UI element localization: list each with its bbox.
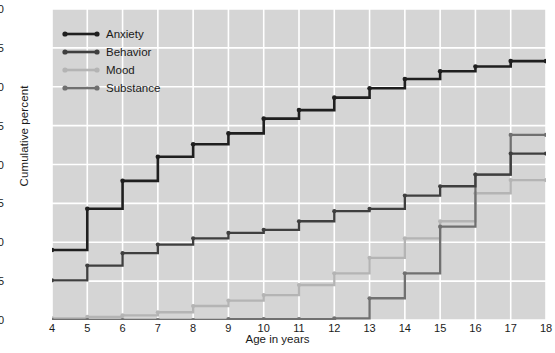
data-point [544,152,546,156]
data-point [226,231,230,235]
x-tick-label: 7 [143,322,173,334]
legend-item-substance[interactable]: Substance [62,80,160,96]
legend-item-label: Mood [106,63,135,77]
data-point [544,133,546,137]
data-point [367,256,371,260]
data-point [367,86,372,91]
data-point [85,207,90,212]
data-point [509,152,513,156]
data-point [156,310,160,314]
data-point [509,178,513,182]
x-tick-label: 12 [319,322,349,334]
data-point [509,133,513,137]
data-point [191,318,195,320]
data-point [438,219,442,223]
chart-figure: Cumulative percent Age in years 40353025… [0,0,555,353]
chart-legend: AnxietyBehaviorMoodSubstance [62,26,160,96]
data-point [297,283,301,287]
data-point [332,271,336,275]
legend-item-label: Anxiety [106,27,144,41]
data-point [85,263,89,267]
y-tick-label: 25 [0,120,4,132]
data-point [367,296,371,300]
y-tick-label: 15 [0,197,4,209]
legend-line-swatch-icon [62,81,100,95]
data-point [508,59,513,64]
y-tick-label: 0 [0,314,4,326]
x-tick-label: 8 [178,322,208,334]
x-tick-label: 18 [531,322,555,334]
data-point [262,293,266,297]
data-point [473,64,478,69]
x-tick-label: 15 [425,322,455,334]
data-point [156,154,161,159]
x-tick-label: 11 [284,322,314,334]
data-point [120,179,125,184]
data-point [262,317,266,320]
data-point [438,69,443,74]
legend-item-behavior[interactable]: Behavior [62,44,160,60]
y-tick-label: 5 [0,275,4,287]
y-tick-label: 20 [0,159,4,171]
data-point [473,173,477,177]
data-point [226,317,230,320]
data-point [156,318,160,320]
legend-line-swatch-icon [62,27,100,41]
data-point [332,209,336,213]
x-tick-label: 13 [355,322,385,334]
legend-line-swatch-icon [62,45,100,59]
x-tick-label: 5 [72,322,102,334]
legend-item-anxiety[interactable]: Anxiety [62,26,160,42]
data-point [403,77,408,82]
data-point [403,236,407,240]
x-tick-label: 4 [37,322,67,334]
legend-item-mood[interactable]: Mood [62,62,160,78]
data-point [191,236,195,240]
data-point [261,116,266,121]
data-point [297,317,301,320]
data-point [544,59,546,64]
y-tick-label: 10 [0,236,4,248]
data-point [367,207,371,211]
data-point [191,304,195,308]
y-tick-label: 30 [0,81,4,93]
data-point [120,318,124,320]
data-point [52,248,54,253]
data-point [332,95,337,100]
data-point [438,184,442,188]
data-point [262,228,266,232]
x-tick-label: 14 [390,322,420,334]
legend-item-label: Substance [106,81,160,95]
data-point [297,219,301,223]
data-point [120,313,124,317]
x-tick-label: 6 [108,322,138,334]
y-axis-title: Cumulative percent [18,66,30,206]
y-tick-label: 35 [0,42,4,54]
data-point [403,271,407,275]
data-point [226,298,230,302]
y-tick-label: 40 [0,3,4,15]
data-point [120,251,124,255]
data-point [438,225,442,229]
x-tick-label: 10 [249,322,279,334]
data-point [297,108,302,113]
data-point [403,194,407,198]
x-tick-label: 9 [213,322,243,334]
data-point [226,131,231,136]
data-point [191,142,196,147]
x-tick-label: 16 [460,322,490,334]
x-tick-label: 17 [496,322,526,334]
x-axis-title: Age in years [0,333,555,345]
data-point [332,316,336,320]
legend-line-swatch-icon [62,63,100,77]
legend-item-label: Behavior [106,45,151,59]
data-point [156,242,160,246]
data-point [544,178,546,182]
